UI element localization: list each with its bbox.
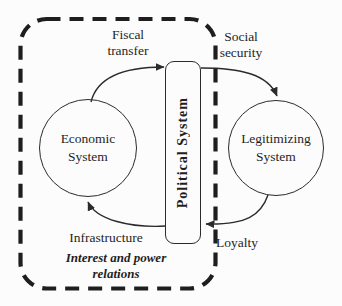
legitimizing-system-node: Legitimizing System	[228, 100, 324, 196]
infrastructure-arrow	[88, 202, 166, 226]
diagram-canvas: Economic System Legitimizing System Poli…	[0, 0, 342, 306]
fiscal-transfer-arrow	[91, 67, 164, 102]
legitimizing-system-label: Legitimizing System	[229, 130, 323, 165]
social-security-arrow	[201, 68, 277, 96]
fiscal-transfer-label: Fiscal transfer	[98, 27, 158, 58]
loyalty-label: Loyalty	[216, 235, 276, 251]
infrastructure-label: Infrastructure	[58, 230, 154, 246]
boundary-caption: Interest and power relations	[59, 250, 173, 283]
economic-system-node: Economic System	[39, 99, 137, 197]
political-system-label: Political System	[175, 97, 191, 208]
political-system-node: Political System	[165, 61, 201, 244]
economic-system-label: Economic System	[40, 130, 136, 165]
social-security-label: Social security	[214, 29, 268, 60]
